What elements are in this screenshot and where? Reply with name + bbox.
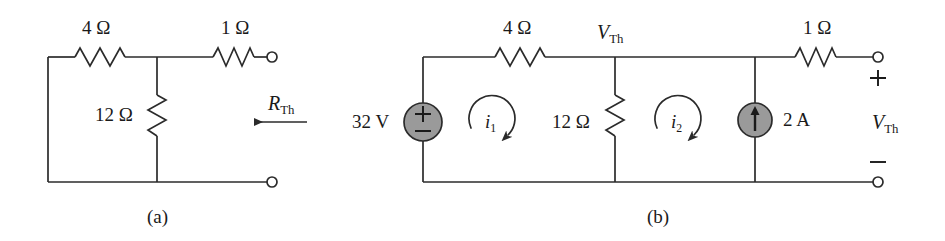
- panel-b-schematic: [404, 48, 886, 187]
- label-a-resistor-4ohm: 4 Ω: [82, 18, 110, 37]
- label-b-mesh-current-i1: i1: [485, 112, 496, 131]
- resistor-a-12ohm-symbol: [148, 95, 166, 136]
- i2-subscript: 2: [676, 122, 682, 135]
- output-vth-symbol: V: [872, 111, 884, 133]
- label-a-resistor-1ohm: 1 Ω: [221, 18, 249, 37]
- label-b-resistor-4ohm: 4 Ω: [503, 18, 531, 37]
- label-b-voltage-source-32v: 32 V: [352, 112, 389, 131]
- label-a-resistor-12ohm: 12 Ω: [95, 105, 133, 124]
- terminal-b-top: [873, 52, 883, 62]
- node-vth-symbol: V: [597, 21, 609, 43]
- resistor-b-1ohm-symbol: [795, 48, 836, 66]
- label-a-rth: RTh: [268, 93, 294, 113]
- resistor-b-4ohm-symbol: [495, 48, 545, 66]
- node-vth-subscript: Th: [609, 32, 623, 46]
- output-vth-subscript: Th: [884, 122, 898, 136]
- caption-panel-b: (b): [647, 207, 669, 226]
- resistor-a-1ohm-symbol: [213, 48, 254, 66]
- i1-subscript: 1: [490, 122, 496, 135]
- label-b-node-vth: VTh: [597, 22, 623, 42]
- rth-symbol: R: [268, 92, 280, 114]
- circuit-figure: 4 Ω 1 Ω 12 Ω RTh (a) 32 V 4 Ω VTh 12 Ω i…: [0, 0, 945, 241]
- resistor-b-12ohm-symbol: [606, 95, 624, 136]
- terminal-b-bottom: [873, 177, 883, 187]
- rth-subscript: Th: [280, 103, 294, 117]
- panel-a-schematic: [48, 48, 307, 187]
- terminal-a-bottom: [267, 177, 277, 187]
- label-b-resistor-1ohm: 1 Ω: [803, 18, 831, 37]
- polarity-plus-glyph: [870, 70, 886, 86]
- label-b-output-vth: VTh: [872, 112, 898, 132]
- label-b-resistor-12ohm: 12 Ω: [552, 112, 590, 131]
- label-b-current-source-2a: 2 A: [783, 110, 810, 129]
- label-b-mesh-current-i2: i2: [671, 112, 682, 131]
- resistor-a-4ohm-symbol: [75, 48, 125, 66]
- terminal-a-top: [267, 52, 277, 62]
- caption-panel-a: (a): [147, 207, 168, 226]
